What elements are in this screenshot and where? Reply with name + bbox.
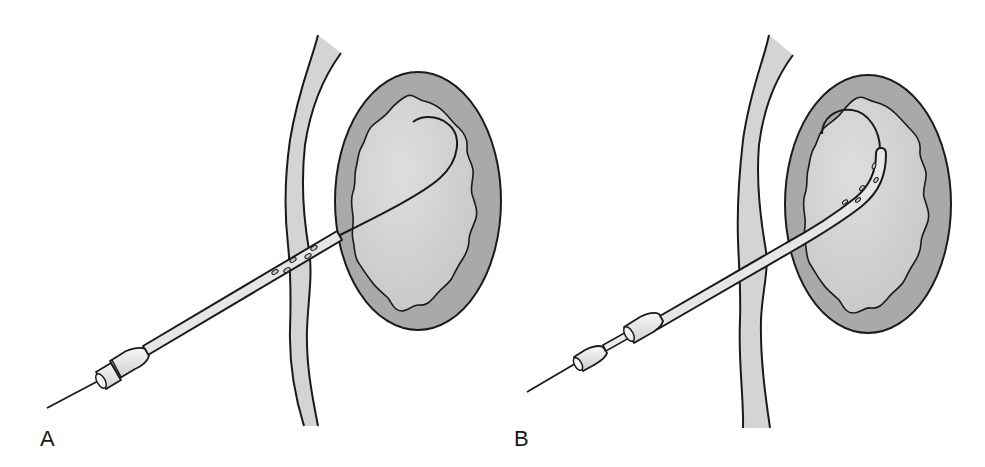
stylet-hub-b bbox=[571, 346, 607, 372]
needle-a bbox=[47, 380, 100, 408]
catheter-hub-b bbox=[622, 313, 663, 343]
body-wall-a bbox=[286, 35, 341, 426]
needle-hub-a bbox=[94, 348, 149, 390]
needle-b bbox=[527, 362, 578, 392]
catheter-sheath-a bbox=[143, 231, 342, 355]
panel-a bbox=[47, 35, 501, 426]
panel-label-b: B bbox=[514, 428, 529, 450]
panel-label-a: A bbox=[40, 428, 55, 450]
panel-b bbox=[527, 35, 951, 428]
body-wall-b bbox=[738, 35, 793, 428]
catheter-placement-figure bbox=[0, 0, 985, 467]
